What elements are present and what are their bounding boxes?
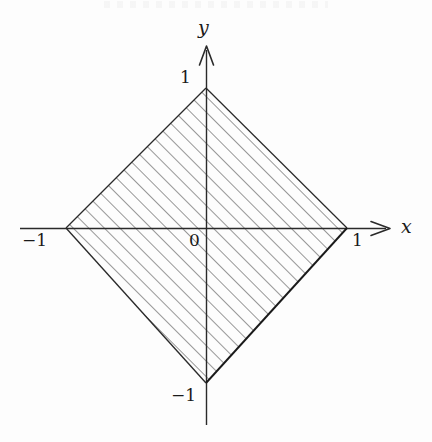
x-tick-label-negative-one: −1 <box>22 232 47 249</box>
origin-label: 0 <box>189 232 200 249</box>
y-tick-label-positive-one: 1 <box>180 69 191 86</box>
y-tick-label-negative-one: −1 <box>171 387 196 404</box>
y-axis-label: y <box>198 18 209 37</box>
x-axis-label: x <box>401 217 412 236</box>
figure-canvas: y x 1 −1 1 −1 0 <box>0 0 432 442</box>
plot-svg <box>0 0 432 442</box>
x-tick-label-positive-one: 1 <box>352 232 363 249</box>
